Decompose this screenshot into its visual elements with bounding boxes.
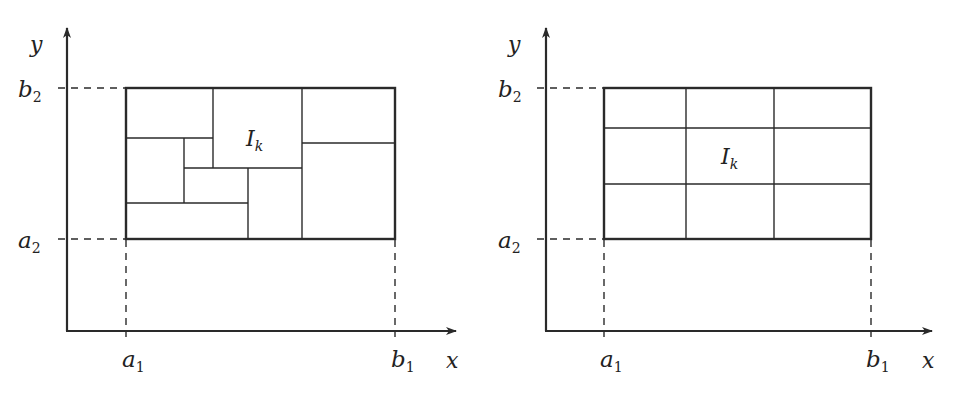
- diagram-regular-grid-partition: y x b2 a2 a1 b1 Ik: [498, 28, 935, 375]
- b1-label: b1: [866, 346, 890, 375]
- partition-lines: [126, 88, 395, 239]
- region-rectangle: [126, 88, 395, 239]
- b2-label: b2: [498, 76, 522, 105]
- x-axis-label: x: [922, 348, 935, 373]
- figure-canvas: y x b2 a2 a1 b1 Ik y x b2 a2 a1 b1: [0, 0, 966, 401]
- diagram-irregular-partition: y x b2 a2 a1 b1 Ik: [18, 28, 459, 375]
- cell-Ik-label: Ik: [245, 126, 263, 154]
- a2-label: a2: [18, 227, 41, 256]
- b2-label: b2: [18, 76, 42, 105]
- a2-label: a2: [498, 227, 521, 256]
- y-axis-label: y: [507, 32, 521, 57]
- cell-Ik-label: Ik: [720, 144, 738, 172]
- a1-label: a1: [600, 346, 623, 375]
- a1-label: a1: [122, 346, 145, 375]
- y-axis-label: y: [29, 32, 43, 57]
- b1-label: b1: [391, 346, 415, 375]
- x-axis-label: x: [446, 348, 459, 373]
